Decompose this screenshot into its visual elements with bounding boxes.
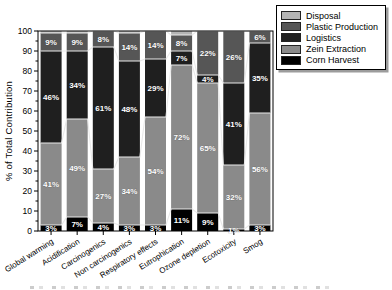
y-tick-label: 40 <box>23 146 33 156</box>
legend-label: Plastic Production <box>306 22 378 32</box>
legend-label: Corn Harvest <box>306 55 359 65</box>
segment-percentage-label: 8% <box>97 35 109 44</box>
segment-percentage-label: 65% <box>200 144 216 153</box>
y-tick-label: 10 <box>23 206 33 216</box>
y-tick-label: 0 <box>27 226 32 236</box>
legend-label: Logistics <box>306 33 341 43</box>
y-tick-label: 100 <box>18 26 32 36</box>
segment-percentage-label: 14% <box>121 43 137 52</box>
segment-percentage-label: 34% <box>121 187 137 196</box>
legend-swatch <box>281 33 301 42</box>
segment-percentage-label: 34% <box>69 81 85 90</box>
segment-percentage-label: 4% <box>202 75 214 84</box>
segment-percentage-label: 72% <box>174 133 190 142</box>
segment-percentage-label: 29% <box>147 84 163 93</box>
segment-percentage-label: 1% <box>228 226 240 235</box>
bar-segment <box>171 31 192 35</box>
segment-percentage-label: 49% <box>69 164 85 173</box>
segment-percentage-label: 22% <box>200 49 216 58</box>
legend-item-plastic-production: Plastic Production <box>281 21 382 32</box>
segment-percentage-label: 8% <box>176 39 188 48</box>
segment-percentage-label: 9% <box>202 218 214 227</box>
stacked-bar-figure: % of Total Contribution 0102030405060708… <box>0 0 392 290</box>
segment-percentage-label: 3% <box>254 224 266 233</box>
segment-percentage-label: 46% <box>43 93 59 102</box>
legend-item-logistics: Logistics <box>281 32 382 43</box>
legend-item-disposal: Disposal <box>281 10 382 21</box>
x-tick-label: Smog <box>242 237 264 256</box>
segment-percentage-label: 32% <box>226 193 242 202</box>
legend-swatch <box>281 22 301 31</box>
y-tick-label: 30 <box>23 166 33 176</box>
segment-percentage-label: 3% <box>124 224 136 233</box>
segment-percentage-label: 61% <box>95 104 111 113</box>
y-tick-label: 80 <box>23 66 33 76</box>
legend-label: Disposal <box>306 11 341 21</box>
segment-percentage-label: 35% <box>252 74 268 83</box>
y-tick-label: 70 <box>23 86 33 96</box>
y-tick-label: 60 <box>23 106 33 116</box>
legend-item-zein-extraction: Zein Extraction <box>281 44 382 55</box>
segment-percentage-label: 41% <box>43 180 59 189</box>
segment-percentage-label: 27% <box>95 192 111 201</box>
cropped-caption-fragment <box>30 286 335 289</box>
legend-swatch <box>281 11 301 20</box>
segment-percentage-label: 7% <box>71 220 83 229</box>
segment-percentage-label: 54% <box>147 167 163 176</box>
segment-percentage-label: 6% <box>254 33 266 42</box>
y-tick-label: 90 <box>23 46 33 56</box>
segment-percentage-label: 9% <box>45 38 57 47</box>
segment-percentage-label: 9% <box>71 38 83 47</box>
segment-percentage-label: 11% <box>174 216 190 225</box>
segment-percentage-label: 48% <box>121 105 137 114</box>
legend: DisposalPlastic ProductionLogisticsZein … <box>276 5 386 70</box>
y-tick-label: 20 <box>23 186 33 196</box>
legend-swatch <box>281 56 301 65</box>
segment-percentage-label: 3% <box>45 224 57 233</box>
legend-item-corn-harvest: Corn Harvest <box>281 55 382 66</box>
segment-percentage-label: 3% <box>150 224 162 233</box>
segment-percentage-label: 7% <box>176 54 188 63</box>
segment-percentage-label: 4% <box>97 223 109 232</box>
legend-swatch <box>281 45 301 54</box>
segment-percentage-label: 26% <box>226 53 242 62</box>
segment-percentage-label: 41% <box>226 120 242 129</box>
segment-percentage-label: 14% <box>147 41 163 50</box>
legend-label: Zein Extraction <box>306 44 366 54</box>
y-tick-label: 50 <box>23 126 33 136</box>
segment-percentage-label: 56% <box>252 165 268 174</box>
